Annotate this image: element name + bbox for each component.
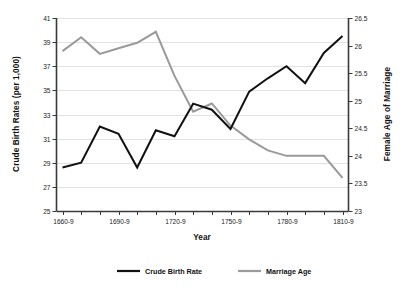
right-axis-tick-label: 25.5: [355, 70, 368, 77]
x-axis-tick-label: 1750-9: [221, 218, 242, 225]
legend-label-marriage-age: Marriage Age: [266, 267, 311, 276]
x-axis-tick-label: 1660-9: [53, 218, 74, 225]
right-axis-tick-label: 24: [355, 153, 363, 160]
y2-axis-title: Female Age of Marriage: [383, 67, 392, 162]
line-chart-svg: Crude Birth Rates (per 1,000) Female Age…: [0, 0, 405, 303]
left-axis-tick-label: 27: [43, 184, 51, 191]
right-axis-tick-label: 23: [355, 208, 363, 215]
left-axis-tick-label: 25: [43, 208, 51, 215]
legend-label-crude-birth-rate: Crude Birth Rate: [145, 267, 202, 276]
right-axis-tick-label: 26.5: [355, 15, 368, 22]
chart-background: [0, 0, 405, 303]
right-axis-tick-label: 23.5: [355, 180, 368, 187]
right-axis-tick-label: 24.5: [355, 125, 368, 132]
x-axis-tick-label: 1720-9: [165, 218, 186, 225]
right-axis-tick-label: 25: [355, 98, 363, 105]
left-axis-tick-label: 29: [43, 160, 51, 167]
x-axis-title: Year: [193, 233, 211, 242]
left-axis-tick-label: 35: [43, 87, 51, 94]
left-axis-tick-label: 31: [43, 136, 51, 143]
right-axis-tick-label: 26: [355, 43, 363, 50]
x-axis-tick-label: 1780-9: [277, 218, 298, 225]
x-axis-tick-label: 1810-9: [333, 218, 354, 225]
chart-figure: Crude Birth Rates (per 1,000) Female Age…: [0, 0, 405, 303]
left-axis-tick-label: 37: [43, 63, 51, 70]
left-axis-tick-label: 41: [43, 15, 51, 22]
y-axis-title: Crude Birth Rates (per 1,000): [12, 56, 21, 172]
x-axis-tick-label: 1690-9: [109, 218, 130, 225]
left-axis-tick-label: 39: [43, 39, 51, 46]
left-axis-tick-label: 33: [43, 112, 51, 119]
